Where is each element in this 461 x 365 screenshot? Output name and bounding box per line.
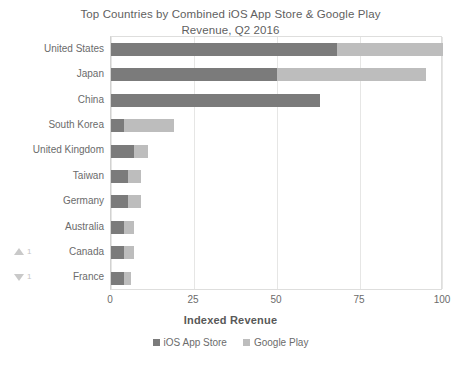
bar-row xyxy=(111,266,441,291)
bar-segment xyxy=(111,246,124,259)
legend-item: iOS App Store xyxy=(153,337,227,348)
bar-segment xyxy=(111,119,124,132)
x-axis-ticks: 0255075100 xyxy=(110,294,442,308)
x-axis-title: Indexed Revenue xyxy=(0,314,461,326)
triangle-down-icon xyxy=(14,274,24,281)
y-axis-label: Australia xyxy=(0,221,104,233)
bar-row xyxy=(111,37,441,62)
bar-stack xyxy=(111,94,320,107)
bar-segment xyxy=(337,43,443,56)
bar-segment xyxy=(111,68,277,81)
legend-item: Google Play xyxy=(243,337,308,348)
bar-row xyxy=(111,62,441,87)
chart-title: Top Countries by Combined iOS App Store … xyxy=(0,6,461,38)
bar-segment xyxy=(124,246,134,259)
bar-stack xyxy=(111,119,174,132)
bar-row xyxy=(111,139,441,164)
bar-stack xyxy=(111,43,443,56)
bar-segment xyxy=(124,119,174,132)
legend-label: iOS App Store xyxy=(164,337,227,348)
plot-area xyxy=(110,36,442,290)
gridline-100 xyxy=(442,37,443,289)
y-axis-label: United States xyxy=(0,43,104,55)
bar-segment xyxy=(111,221,124,234)
bar-segment xyxy=(111,94,320,107)
annotation-up: 1 xyxy=(14,247,31,257)
x-axis-tick-label: 100 xyxy=(434,294,451,305)
chart-legend: iOS App StoreGoogle Play xyxy=(0,337,461,348)
bars-layer xyxy=(111,37,441,289)
bar-segment xyxy=(111,272,124,285)
y-axis-label: South Korea xyxy=(0,119,104,131)
bar-segment xyxy=(134,145,147,158)
y-axis-label: Taiwan xyxy=(0,170,104,182)
bar-segment xyxy=(111,195,128,208)
bar-row xyxy=(111,113,441,138)
bar-segment xyxy=(111,145,134,158)
legend-swatch xyxy=(243,339,250,346)
y-axis-label: China xyxy=(0,94,104,106)
y-axis-label: Japan xyxy=(0,68,104,80)
bar-stack xyxy=(111,68,426,81)
annotation-down: 1 xyxy=(14,272,31,282)
bar-segment xyxy=(128,195,141,208)
bar-row xyxy=(111,189,441,214)
bar-chart: Top Countries by Combined iOS App Store … xyxy=(0,0,461,365)
y-axis-label: United Kingdom xyxy=(0,144,104,156)
y-axis-label: Germany xyxy=(0,195,104,207)
annotation-value: 1 xyxy=(27,272,31,282)
bar-row xyxy=(111,88,441,113)
bar-segment xyxy=(277,68,426,81)
bar-stack xyxy=(111,195,141,208)
bar-stack xyxy=(111,246,134,259)
triangle-up-icon xyxy=(14,248,24,255)
bar-stack xyxy=(111,145,148,158)
x-axis-tick-label: 75 xyxy=(353,294,364,305)
bar-row xyxy=(111,164,441,189)
annotation-value: 1 xyxy=(27,247,31,257)
bar-stack xyxy=(111,170,141,183)
bar-stack xyxy=(111,272,131,285)
bar-segment xyxy=(111,43,337,56)
bar-stack xyxy=(111,221,134,234)
x-axis-tick-label: 50 xyxy=(270,294,281,305)
bar-row xyxy=(111,240,441,265)
bar-segment xyxy=(124,272,131,285)
bar-segment xyxy=(111,170,128,183)
chart-title-line-1: Top Countries by Combined iOS App Store … xyxy=(81,8,381,20)
legend-swatch xyxy=(153,339,160,346)
x-axis-tick-label: 0 xyxy=(107,294,113,305)
x-axis-tick-label: 25 xyxy=(187,294,198,305)
legend-label: Google Play xyxy=(254,337,308,348)
bar-segment xyxy=(124,221,134,234)
bar-segment xyxy=(128,170,141,183)
bar-row xyxy=(111,215,441,240)
